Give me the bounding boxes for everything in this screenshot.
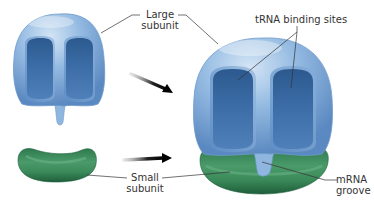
assembly-arrow-top — [131, 74, 173, 93]
assembly-arrow-bottom — [124, 153, 172, 163]
trna-pocket-left-separate — [27, 38, 53, 99]
large-subunit-separate — [13, 14, 104, 125]
label-mrna-groove: mRNA groove — [336, 174, 372, 196]
small-subunit-separate — [18, 148, 96, 182]
diagram-canvas — [0, 0, 374, 202]
trna-pocket-left — [213, 69, 253, 149]
assembled-ribosome — [193, 38, 332, 194]
trna-pocket-right — [273, 69, 313, 149]
label-trna-binding-sites: tRNA binding sites — [255, 14, 341, 25]
label-large-subunit: Large subunit — [140, 9, 180, 31]
trna-pocket-right-separate — [66, 38, 93, 99]
label-small-subunit: Small subunit — [126, 172, 164, 194]
ribosome-diagram: Large subunit tRNA binding sites Small s… — [0, 0, 374, 202]
